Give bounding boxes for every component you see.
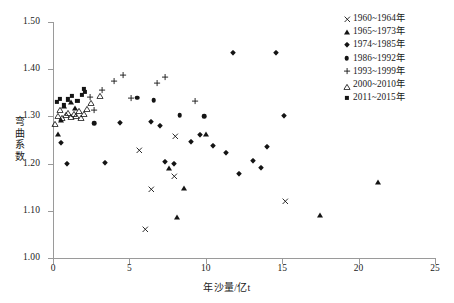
marker-diamond — [64, 160, 70, 166]
marker-plus — [161, 74, 168, 81]
legend-item[interactable]: 2000~2010年 — [340, 78, 452, 91]
legend-label: 2000~2010年 — [353, 80, 405, 89]
scatter-chart: 1.001.101.201.301.401.50 0510152025 年沙量/… — [0, 0, 454, 303]
x-tick-label: 25 — [420, 263, 450, 273]
marker-triangle-filled — [375, 180, 381, 185]
y-tick-label: 1.50 — [6, 17, 40, 27]
legend-item[interactable]: 1965~1973年 — [340, 25, 452, 38]
marker-diamond — [343, 42, 349, 48]
marker-square — [70, 94, 74, 98]
marker-diamond — [250, 158, 256, 164]
marker-cross — [171, 173, 177, 179]
legend-marker — [340, 38, 353, 51]
marker-triangle-open — [97, 85, 104, 103]
marker-diamond — [161, 159, 167, 165]
marker-diamond — [236, 171, 242, 177]
marker-triangle-filled — [203, 131, 209, 136]
legend-marker — [340, 52, 353, 65]
x-tick-label: 5 — [114, 263, 144, 273]
legend-label: 1986~1992年 — [353, 54, 405, 63]
x-axis-line — [53, 258, 436, 259]
marker-circle — [92, 121, 97, 126]
marker-diamond — [148, 119, 154, 125]
marker-cross — [141, 226, 147, 232]
marker-circle — [202, 114, 207, 119]
legend-marker — [340, 12, 353, 25]
marker-triangle-filled — [174, 215, 180, 220]
marker-diamond — [210, 143, 216, 149]
marker-diamond — [264, 143, 270, 149]
legend-marker — [340, 91, 353, 104]
y-axis-title: 弯曲系数 — [14, 116, 26, 162]
marker-square — [62, 103, 66, 107]
legend-label: 1974~1985年 — [353, 40, 405, 49]
legend-label: 1993~1999年 — [353, 67, 405, 76]
marker-circle — [344, 56, 349, 61]
marker-cross — [172, 133, 178, 139]
marker-diamond — [117, 119, 123, 125]
y-tick-label: 1.00 — [6, 253, 40, 263]
marker-plus — [153, 79, 160, 86]
marker-diamond — [230, 50, 236, 56]
marker-cross — [282, 198, 288, 204]
marker-circle — [152, 98, 157, 103]
marker-diamond — [273, 50, 279, 56]
marker-triangle-filled — [166, 166, 172, 171]
marker-square — [344, 96, 348, 100]
marker-square — [75, 99, 79, 103]
marker-plus — [128, 94, 135, 101]
marker-cross — [135, 147, 141, 153]
marker-circle — [178, 113, 183, 118]
marker-diamond — [58, 140, 64, 146]
marker-diamond — [157, 123, 163, 129]
marker-triangle-filled — [181, 185, 187, 190]
legend-item[interactable]: 1993~1999年 — [340, 65, 452, 78]
legend-label: 1960~1964年 — [353, 14, 405, 23]
marker-diamond — [281, 113, 287, 119]
legend-marker — [340, 25, 353, 38]
marker-square — [83, 90, 87, 94]
marker-diamond — [223, 150, 229, 156]
marker-plus — [192, 97, 199, 104]
legend-item[interactable]: 2011~2015年 — [340, 91, 452, 104]
marker-diamond — [258, 165, 264, 171]
legend-label: 2011~2015年 — [353, 93, 405, 102]
marker-diamond — [187, 139, 193, 145]
y-tick-label: 1.10 — [6, 206, 40, 216]
x-tick-label: 20 — [344, 263, 374, 273]
marker-triangle-filled — [344, 29, 350, 34]
legend: 1960~1964年1965~1973年1974~1985年1986~1992年… — [340, 12, 452, 104]
legend-item[interactable]: 1974~1985年 — [340, 38, 452, 51]
marker-cross — [343, 15, 349, 21]
marker-square — [58, 97, 62, 101]
y-tick-label: 1.40 — [6, 64, 40, 74]
x-axis-title: 年沙量/亿t — [0, 279, 454, 294]
legend-label: 1965~1973年 — [353, 27, 405, 36]
legend-item[interactable]: 1986~1992年 — [340, 52, 452, 65]
marker-triangle-filled — [55, 132, 61, 137]
marker-plus — [343, 68, 350, 75]
x-tick-label: 15 — [267, 263, 297, 273]
marker-plus — [111, 77, 118, 84]
marker-square — [66, 97, 70, 101]
marker-triangle-open — [88, 92, 95, 110]
x-tick-label: 10 — [191, 263, 221, 273]
legend-marker — [340, 78, 353, 91]
marker-cross — [148, 186, 154, 192]
marker-plus — [120, 71, 127, 78]
legend-item[interactable]: 1960~1964年 — [340, 12, 452, 25]
marker-diamond — [197, 132, 203, 138]
marker-circle — [135, 95, 140, 100]
marker-diamond — [102, 160, 108, 166]
x-tick-label: 0 — [38, 263, 68, 273]
marker-triangle-filled — [317, 213, 323, 218]
